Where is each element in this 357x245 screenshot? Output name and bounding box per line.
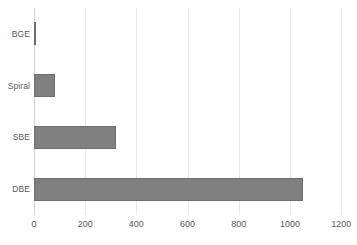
value-axis-labels: 020040060080010001200 [0, 218, 357, 234]
bar-row [34, 126, 356, 149]
bar-row [34, 22, 356, 45]
category-label-dbe: DBE [12, 184, 30, 194]
x-tick-label-1200: 1200 [331, 218, 351, 230]
x-tick-label-0: 0 [31, 218, 36, 230]
bar-row [34, 74, 356, 97]
bar-bge[interactable] [34, 22, 36, 45]
bar-dbe[interactable] [34, 178, 303, 201]
category-label-sbe: SBE [13, 132, 30, 142]
bar-rows [34, 8, 356, 215]
bar-spiral[interactable] [34, 74, 55, 97]
x-tick-label-1000: 1000 [280, 218, 300, 230]
bar-row [34, 178, 356, 201]
bar-sbe[interactable] [34, 126, 116, 149]
bar-chart: DBESBESpiralBGE 020040060080010001200 [0, 0, 357, 245]
x-tick-label-400: 400 [129, 218, 144, 230]
category-axis-labels: DBESBESpiralBGE [0, 8, 30, 215]
x-tick-label-200: 200 [78, 218, 93, 230]
category-label-spiral: Spiral [8, 81, 30, 91]
plot-area [34, 8, 356, 215]
x-tick-label-600: 600 [180, 218, 195, 230]
x-tick-label-800: 800 [231, 218, 246, 230]
category-label-bge: BGE [12, 29, 30, 39]
